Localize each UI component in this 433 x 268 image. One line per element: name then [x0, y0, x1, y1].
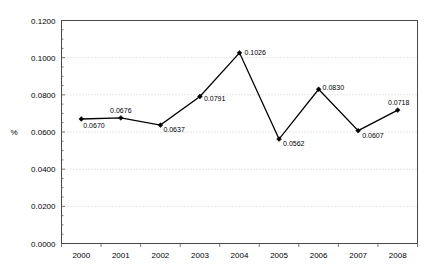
data-value-label: 0.0791 — [204, 95, 226, 102]
y-axis-title-text: % — [10, 128, 17, 137]
data-value-label: 0.0637 — [163, 126, 185, 133]
y-axis-title: % — [10, 128, 17, 137]
data-point-marker — [395, 108, 400, 113]
data-series-markers — [79, 50, 400, 141]
data-value-label: 0.0718 — [388, 99, 410, 106]
data-point-marker — [118, 115, 123, 120]
line-chart: 0.06700.06760.06370.07910.10260.05620.08… — [0, 0, 433, 268]
x-tick-label: 2001 — [112, 251, 130, 260]
x-tick-label: 2005 — [270, 251, 288, 260]
data-value-label: 0.0607 — [362, 132, 384, 139]
x-tick-label: 2000 — [72, 251, 90, 260]
chart-canvas: 0.06700.06760.06370.07910.10260.05620.08… — [0, 0, 433, 268]
data-series-line — [81, 53, 397, 139]
x-tick-label: 2008 — [389, 251, 407, 260]
x-tick-label: 2004 — [231, 251, 249, 260]
data-value-label: 0.0676 — [110, 107, 132, 114]
data-value-label: 0.0562 — [283, 140, 305, 147]
data-value-label: 0.0670 — [83, 122, 105, 129]
x-axis-tick-labels: 200020012002200320042005200620072008 — [72, 251, 407, 260]
data-point-marker — [79, 117, 84, 122]
data-value-label: 0.1026 — [245, 49, 267, 56]
y-tick-label: 0.0000 — [31, 240, 56, 249]
series-polyline — [81, 53, 397, 139]
y-axis-tick-labels: 0.00000.02000.04000.06000.08000.10000.12… — [31, 17, 56, 249]
y-tick-label: 0.0600 — [31, 128, 56, 137]
y-tick-label: 0.0400 — [31, 165, 56, 174]
y-tick-label: 0.0800 — [31, 91, 56, 100]
x-tick-label: 2006 — [310, 251, 328, 260]
y-tick-label: 0.0200 — [31, 202, 56, 211]
x-tick-label: 2002 — [151, 251, 169, 260]
data-value-labels: 0.06700.06760.06370.07910.10260.05620.08… — [83, 49, 409, 147]
y-tick-label: 0.1200 — [31, 17, 56, 26]
data-value-label: 0.0830 — [323, 84, 345, 91]
x-tick-label: 2007 — [349, 251, 367, 260]
x-tick-label: 2003 — [191, 251, 209, 260]
y-tick-label: 0.1000 — [31, 54, 56, 63]
